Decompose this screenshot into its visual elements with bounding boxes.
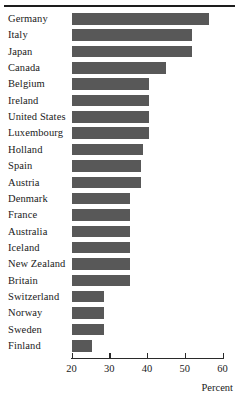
bar	[72, 291, 104, 303]
x-axis-tick-label: 50	[170, 362, 200, 375]
x-axis-tick	[185, 353, 186, 359]
category-label: Belgium	[8, 76, 68, 92]
header-rule	[4, 5, 235, 7]
bar-row: New Zealand	[0, 256, 239, 272]
bar-row: Ireland	[0, 93, 239, 109]
category-label: Japan	[8, 44, 68, 60]
bar-row: Denmark	[0, 191, 239, 207]
bar-row: Luxembourg	[0, 125, 239, 141]
category-label: United States	[8, 109, 68, 125]
bar-row: Britain	[0, 273, 239, 289]
bar	[72, 46, 193, 58]
x-axis-tick	[109, 353, 110, 359]
bar	[72, 193, 131, 205]
bar-chart-figure: GermanyItalyJapanCanadaBelgiumIrelandUni…	[0, 9, 239, 419]
bar-row: Switzerland	[0, 289, 239, 305]
category-label: Sweden	[8, 322, 68, 338]
bar	[72, 324, 104, 336]
bar-row: Australia	[0, 224, 239, 240]
category-label: Austria	[8, 175, 68, 191]
bar	[72, 177, 142, 189]
bar	[72, 13, 210, 25]
bar	[72, 29, 193, 41]
category-label: Norway	[8, 305, 68, 321]
bar	[72, 258, 131, 270]
bar	[72, 275, 131, 287]
bar	[72, 209, 131, 221]
bar-row: Germany	[0, 11, 239, 27]
x-axis-tick	[223, 353, 224, 359]
bar-row: Sweden	[0, 322, 239, 338]
category-label: Italy	[8, 27, 68, 43]
x-axis-tick	[72, 353, 73, 359]
bar	[72, 144, 144, 156]
bar	[72, 160, 142, 172]
bar-row: United States	[0, 109, 239, 125]
bar-row: Iceland	[0, 240, 239, 256]
bar-row: Spain	[0, 158, 239, 174]
category-label: Finland	[8, 338, 68, 354]
x-axis-title: Percent	[0, 381, 233, 394]
plot-area: GermanyItalyJapanCanadaBelgiumIrelandUni…	[0, 9, 239, 361]
x-axis-tick-label: 30	[94, 362, 124, 375]
bar-row: Finland	[0, 338, 239, 354]
bar-row: Holland	[0, 142, 239, 158]
bar-row: Norway	[0, 305, 239, 321]
x-axis-tick-label: 60	[208, 362, 238, 375]
bar	[72, 127, 149, 139]
bar	[72, 95, 149, 107]
category-label: Iceland	[8, 240, 68, 256]
category-label: New Zealand	[8, 256, 68, 272]
category-label: Canada	[8, 60, 68, 76]
category-label: Holland	[8, 142, 68, 158]
x-axis-tick-label: 20	[57, 362, 87, 375]
x-axis-tick	[147, 353, 148, 359]
bar-row: Canada	[0, 60, 239, 76]
x-axis-tick-label: 40	[132, 362, 162, 375]
bar	[72, 307, 104, 319]
category-label: Luxembourg	[8, 125, 68, 141]
category-label: Ireland	[8, 93, 68, 109]
category-label: Britain	[8, 273, 68, 289]
category-label: Switzerland	[8, 289, 68, 305]
category-label: Spain	[8, 158, 68, 174]
bar	[72, 62, 166, 74]
bar-row: Japan	[0, 44, 239, 60]
bar-row: Austria	[0, 175, 239, 191]
category-label: Denmark	[8, 191, 68, 207]
bar	[72, 111, 149, 123]
bar-row: France	[0, 207, 239, 223]
bar	[72, 226, 131, 238]
bar-row: Italy	[0, 27, 239, 43]
bar	[72, 78, 149, 90]
bar	[72, 340, 93, 352]
bar	[72, 242, 131, 254]
category-label: Australia	[8, 224, 68, 240]
category-label: France	[8, 207, 68, 223]
bar-row: Belgium	[0, 76, 239, 92]
category-label: Germany	[8, 11, 68, 27]
